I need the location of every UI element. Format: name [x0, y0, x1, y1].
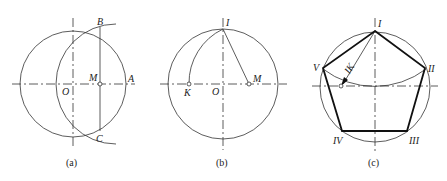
panel-b: I K O M (b): [160, 17, 287, 169]
label-m: M: [88, 72, 98, 83]
label-v: V: [313, 62, 321, 73]
caption-c: (c): [368, 157, 379, 169]
caption-a: (a): [66, 157, 77, 169]
label-a: A: [127, 73, 135, 84]
label-m: M: [252, 73, 262, 84]
line-im: [223, 29, 249, 84]
panel-a: B M A O C (a): [12, 16, 135, 169]
point-k: [187, 82, 191, 86]
label-i: I: [225, 17, 230, 28]
point-m: [98, 82, 102, 86]
arc-ik-sweep: [323, 69, 426, 86]
label-iii: III: [408, 135, 420, 146]
label-i: I: [377, 18, 382, 29]
label-c: C: [96, 133, 103, 144]
label-o: O: [212, 86, 219, 97]
point-m: [247, 82, 251, 86]
label-ii: II: [427, 63, 435, 74]
label-o: O: [62, 86, 69, 97]
pentagon-construction-figure: B M A O C (a) I K O M (b) I II III IV V …: [0, 0, 447, 181]
label-iv: IV: [332, 135, 344, 146]
label-ik: IK: [341, 60, 357, 76]
caption-b: (b): [216, 157, 228, 169]
point-k: [339, 84, 343, 88]
label-b: B: [97, 16, 103, 27]
label-k: K: [183, 87, 192, 98]
panel-c: I II III IV V IK (c): [312, 18, 438, 169]
